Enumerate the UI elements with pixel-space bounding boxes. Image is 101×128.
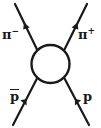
antiproton-symbol: p [10,89,19,104]
feynman-diagram: π− π+ p p [0,0,101,128]
particle-label-pi-plus: π+ [78,28,95,41]
diagram-canvas [0,0,101,128]
arrowhead-pi-minus [23,23,30,30]
pi-minus-symbol: π [2,27,12,42]
particle-label-pi-minus: π− [2,28,19,41]
particle-label-antiproton: p [10,89,19,103]
pi-plus-symbol: π [78,27,88,42]
proton-symbol: p [83,89,92,104]
interaction-blob-icon [32,45,70,83]
pi-plus-charge: + [88,26,96,36]
particle-label-proton: p [83,90,92,103]
antiproton-overbar: p [10,89,19,103]
pi-minus-charge: − [12,26,20,36]
